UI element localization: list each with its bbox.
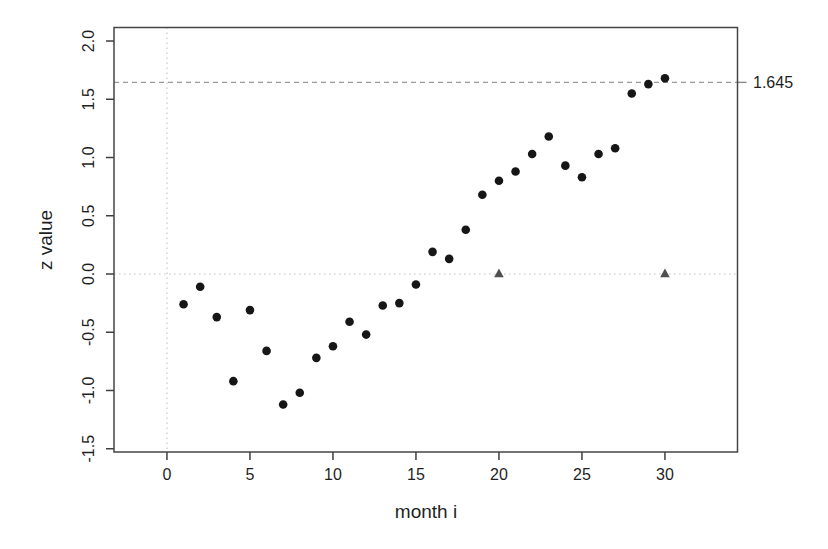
data-point-month-8: [295, 389, 304, 398]
y-tick-label: 1.0: [80, 146, 97, 168]
data-point-month-12: [362, 330, 371, 339]
data-point-month-18: [461, 225, 470, 234]
data-point-month-13: [378, 301, 387, 310]
data-point-month-24: [561, 161, 570, 170]
x-tick-label: 10: [324, 466, 342, 483]
data-point-month-10: [329, 342, 338, 351]
data-point-month-19: [478, 190, 487, 199]
data-point-month-26: [594, 150, 603, 159]
y-tick-label: -1.0: [80, 377, 97, 405]
y-tick-label: -1.5: [80, 435, 97, 463]
triangle-marker-month-30: [660, 269, 670, 278]
data-point-month-30: [661, 74, 670, 83]
triangle-marker-month-20: [494, 269, 504, 278]
y-tick-label: -0.5: [80, 318, 97, 346]
data-point-month-17: [445, 255, 454, 264]
y-tick-label: 0.5: [80, 205, 97, 227]
data-point-month-25: [578, 173, 587, 182]
scatter-plot: 051015202530-1.5-1.0-0.50.00.51.01.52.0 …: [0, 0, 828, 549]
x-tick-label: 20: [490, 466, 508, 483]
data-point-month-16: [428, 248, 437, 257]
y-tick-label: 2.0: [80, 30, 97, 52]
data-point-month-6: [262, 347, 271, 356]
x-tick-label: 5: [246, 466, 255, 483]
data-point-month-20: [495, 177, 504, 186]
data-point-month-28: [627, 89, 636, 98]
data-point-month-9: [312, 354, 321, 363]
y-tick-label: 0.0: [80, 263, 97, 285]
y-axis-label: z value: [35, 210, 56, 270]
x-tick-label: 25: [573, 466, 591, 483]
data-point-month-23: [544, 132, 553, 141]
plot-area-border: [114, 28, 738, 453]
x-tick-label: 0: [163, 466, 172, 483]
y-tick-label: 1.5: [80, 88, 97, 110]
reference-lines-layer: [114, 28, 747, 453]
data-point-month-1: [179, 300, 188, 309]
data-point-month-21: [511, 167, 520, 176]
threshold-value-label: 1.645: [753, 74, 793, 91]
data-point-month-29: [644, 80, 653, 89]
x-axis-label: month i: [395, 501, 457, 522]
data-point-month-7: [279, 400, 288, 409]
data-point-month-2: [196, 283, 205, 292]
data-point-month-22: [528, 150, 537, 159]
x-tick-label: 30: [656, 466, 674, 483]
data-point-month-27: [611, 144, 620, 153]
axis-ticks-layer: 051015202530-1.5-1.0-0.50.00.51.01.52.0: [80, 30, 674, 483]
data-point-month-15: [412, 280, 421, 289]
data-points-layer: [179, 74, 670, 409]
data-point-month-14: [395, 299, 404, 308]
data-point-month-5: [246, 306, 255, 315]
data-point-month-4: [229, 377, 238, 386]
data-point-month-3: [212, 313, 221, 322]
x-tick-label: 15: [407, 466, 425, 483]
data-point-month-11: [345, 317, 354, 326]
scatter-figure: 051015202530-1.5-1.0-0.50.00.51.01.52.0 …: [0, 0, 828, 549]
